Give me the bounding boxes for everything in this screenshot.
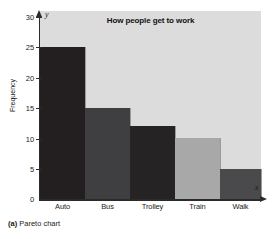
y-tick-label-0: 0: [10, 195, 34, 204]
figure-caption-tag: (a): [8, 219, 17, 228]
bar-auto: [40, 47, 86, 199]
x-tick-label-auto: Auto: [40, 202, 85, 211]
x-axis-arrow-icon: [260, 196, 267, 202]
y-axis-title: Frequency: [9, 61, 16, 131]
x-tick-label-bus: Bus: [85, 202, 130, 211]
y-tick-label-30: 30: [10, 13, 34, 22]
x-axis-letter: x: [255, 183, 259, 192]
y-tick-label-25: 25: [10, 43, 34, 52]
x-tick-label-train: Train: [175, 202, 220, 211]
bar-train: [175, 138, 221, 199]
bar-trolley: [130, 126, 176, 199]
y-tick-mark-20: [36, 78, 42, 79]
bars-container: [40, 11, 261, 199]
y-tick-mark-5: [36, 169, 42, 170]
x-tick-label-walk: Walk: [220, 202, 261, 211]
bar-bus: [85, 108, 131, 199]
y-tick-mark-30: [36, 17, 42, 18]
y-tick-label-5: 5: [10, 165, 34, 174]
figure-caption-text: Pareto chart: [17, 219, 60, 228]
x-axis-line: [39, 199, 261, 201]
y-tick-mark-25: [36, 47, 42, 48]
y-axis-arrow-icon: [36, 10, 42, 17]
y-tick-mark-15: [36, 108, 42, 109]
figure-caption: (a) Pareto chart: [8, 219, 60, 228]
y-tick-label-10: 10: [10, 135, 34, 144]
y-tick-mark-10: [36, 139, 42, 140]
pareto-chart-figure: How people get to work y x 30 25 20 15 1…: [0, 0, 276, 239]
y-axis-letter: y: [45, 10, 49, 19]
x-tick-label-trolley: Trolley: [130, 202, 175, 211]
